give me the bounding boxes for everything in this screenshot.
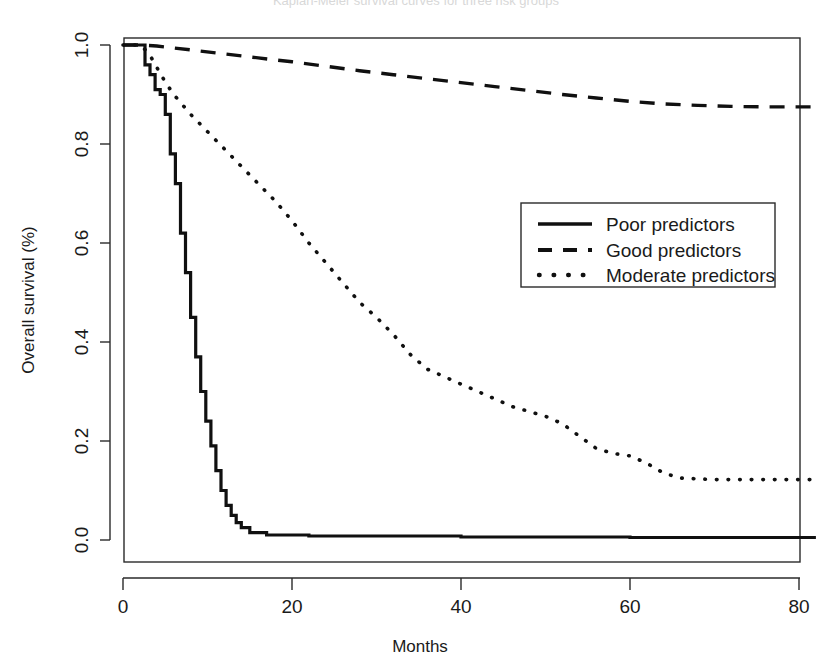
y-ticklabel-4: 0.8: [71, 131, 92, 157]
survival-chart-figure: Kaplan-Meier survival curves for three r…: [0, 0, 832, 670]
y-axis: 1.0 0.8 0.6 0.4 0.2 0.0 Overall survival…: [19, 32, 110, 553]
x-axis: 0 20 40 60 80 Months: [118, 578, 810, 656]
x-ticklabel-2: 40: [450, 596, 471, 617]
legend: Poor predictors Good predictors Moderate…: [521, 203, 775, 287]
y-ticklabel-1: 0.2: [71, 428, 92, 454]
x-ticklabel-0: 0: [118, 596, 129, 617]
legend-label-poor: Poor predictors: [606, 214, 735, 235]
curve-poor-predictors: [123, 45, 816, 538]
plot-frame: [124, 38, 800, 562]
y-ticklabel-2: 0.4: [71, 328, 92, 355]
y-ticklabel-0: 0.0: [71, 527, 92, 553]
legend-label-moderate: Moderate predictors: [606, 265, 775, 286]
x-ticklabel-3: 60: [619, 596, 640, 617]
legend-label-good: Good predictors: [606, 240, 741, 261]
curve-good-predictors: [123, 45, 816, 107]
y-ticklabel-3: 0.6: [71, 230, 92, 256]
y-ticklabel-5: 1.0: [71, 32, 92, 58]
x-ticklabel-4: 80: [788, 596, 809, 617]
x-ticklabel-1: 20: [281, 596, 302, 617]
chart-canvas: 1.0 0.8 0.6 0.4 0.2 0.0 Overall survival…: [0, 0, 832, 670]
x-axis-title: Months: [392, 637, 448, 656]
y-axis-title: Overall survival (%): [19, 226, 38, 373]
